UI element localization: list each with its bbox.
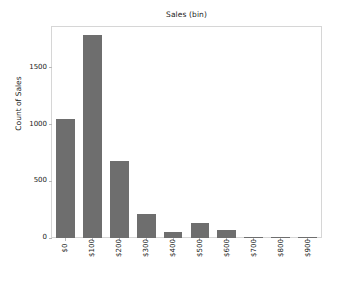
y-tick-label: 1000	[29, 120, 47, 128]
chart-figure: Sales (bin) Count of Sales 050010001500 …	[0, 0, 339, 281]
x-tick-label: $500	[196, 226, 204, 270]
x-tick-label: $200	[115, 226, 123, 270]
y-tick-mark	[49, 181, 52, 182]
bar	[83, 35, 102, 238]
y-tick-label: 0	[43, 233, 47, 241]
x-tick-label: $600	[223, 226, 231, 270]
y-tick-mark	[49, 124, 52, 125]
x-tick-label: $400	[169, 226, 177, 270]
y-tick-mark	[49, 67, 52, 68]
y-tick-label: 1500	[29, 63, 47, 71]
plot-area	[52, 27, 321, 238]
x-tick-label: $0	[61, 226, 69, 270]
bar	[56, 119, 75, 238]
x-tick-label: $900	[304, 226, 312, 270]
y-tick-mark	[49, 238, 52, 239]
x-tick-label: $300	[142, 226, 150, 270]
y-tick-label: 500	[34, 176, 47, 184]
chart-title: Sales (bin)	[50, 10, 323, 19]
x-tick-label: $700	[250, 226, 258, 270]
x-tick-label: $800	[277, 226, 285, 270]
x-tick-label: $100	[88, 226, 96, 270]
y-axis-label: Count of Sales	[14, 68, 23, 140]
bar-series	[52, 27, 321, 238]
